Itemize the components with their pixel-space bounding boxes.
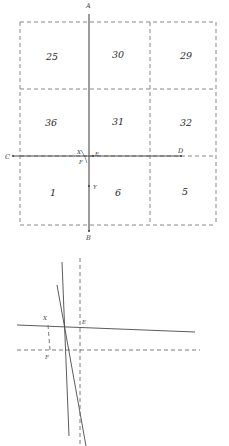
- figure-svg: 253029363132165ABCDEXFYXEF: [0, 0, 229, 446]
- point-label-B: B: [85, 234, 91, 242]
- point-label-C: C: [5, 153, 10, 161]
- cell-label-6: 6: [115, 187, 121, 198]
- point-label-E: E: [94, 151, 99, 157]
- diagram-canvas: 253029363132165ABCDEXFYXEF: [0, 0, 229, 446]
- detail-near-horizontal-line: [17, 325, 195, 332]
- detail-point-label-F: F: [44, 354, 50, 360]
- cell-label-1: 1: [50, 187, 56, 198]
- detail-point-label-E: E: [81, 319, 86, 325]
- detail-steep-line-secondary: [57, 285, 86, 446]
- tick-mark-F: [85, 157, 87, 163]
- detail-short-dashed-connector: [48, 325, 50, 350]
- point-marker-B: [88, 230, 90, 232]
- detail-steep-line-upper: [62, 262, 69, 436]
- cell-label-5: 5: [182, 186, 188, 197]
- detail-point-label-X: X: [42, 315, 48, 321]
- cell-label-32: 32: [180, 117, 192, 128]
- point-label-Y: Y: [93, 184, 98, 190]
- point-marker-D: [180, 155, 182, 157]
- point-marker-C: [12, 155, 14, 157]
- point-label-A: A: [85, 2, 91, 10]
- point-marker-E: [92, 155, 94, 157]
- cell-label-36: 36: [45, 117, 57, 128]
- cell-label-25: 25: [45, 51, 58, 62]
- point-label-D: D: [177, 147, 184, 155]
- point-label-X: X: [76, 149, 82, 155]
- cell-label-29: 29: [179, 50, 192, 61]
- cell-label-30: 30: [112, 49, 124, 60]
- cell-label-31: 31: [112, 116, 124, 127]
- point-label-F: F: [78, 159, 84, 165]
- point-marker-Y: [88, 185, 90, 187]
